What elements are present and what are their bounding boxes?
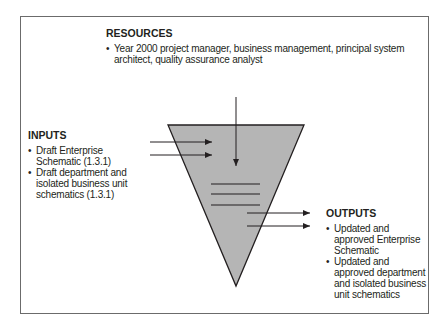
outputs-item: Updated and approved Enterprise Schemati… bbox=[326, 223, 426, 256]
inputs-title: INPUTS bbox=[28, 130, 138, 141]
inputs-block: INPUTS Draft Enterprise Schematic (1.3.1… bbox=[28, 130, 138, 200]
outputs-title: OUTPUTS bbox=[326, 208, 426, 219]
resources-block: RESOURCES Year 2000 project manager, bus… bbox=[106, 28, 406, 65]
inputs-item: Draft department and isolated business u… bbox=[28, 167, 138, 200]
resources-item: Year 2000 project manager, business mana… bbox=[106, 43, 406, 65]
resources-title: RESOURCES bbox=[106, 28, 406, 39]
outputs-block: OUTPUTS Updated and approved Enterprise … bbox=[326, 208, 426, 300]
inputs-item: Draft Enterprise Schematic (1.3.1) bbox=[28, 145, 138, 167]
outputs-item: Updated and approved department and isol… bbox=[326, 256, 426, 300]
